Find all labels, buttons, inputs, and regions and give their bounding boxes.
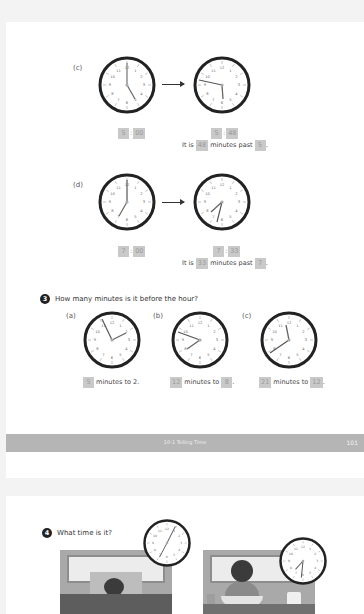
minutes-answer-box: 48	[196, 140, 208, 151]
question-text: How many minutes is it before the hour?	[55, 295, 198, 303]
clock-breakfast-icon	[278, 536, 328, 586]
arrow-head-icon	[180, 81, 185, 87]
q3c-label: (c)	[242, 312, 251, 320]
start-time-display: 7:00	[118, 238, 145, 257]
table	[203, 604, 315, 614]
page-number: 101	[347, 439, 358, 446]
hour-box: 5	[118, 128, 129, 139]
hour-box: 7	[213, 246, 224, 257]
question-number-badge: 4	[42, 528, 52, 538]
clock-q3c-icon	[259, 310, 319, 370]
footer-section-title: 10-1 Telling Time	[6, 439, 364, 445]
question-4-heading: 4What time is it?	[42, 522, 112, 541]
minute-box: 48	[226, 128, 238, 139]
clock-q3b-icon	[170, 310, 230, 370]
question-number-badge: 3	[40, 294, 50, 304]
q3a-label: (a)	[66, 312, 76, 320]
clock-start-icon	[97, 172, 157, 232]
minute-box: 00	[133, 128, 145, 139]
minutes-answer-box: 33	[196, 258, 208, 269]
part-d-sentence: It is 33 minutes past 7.	[182, 258, 268, 269]
clock-start-icon	[97, 55, 157, 115]
hour-answer-box: 12	[310, 377, 322, 388]
hour-answer-box: 5	[255, 140, 266, 151]
minute-box: 00	[133, 246, 145, 257]
end-time-display: 5:48	[211, 120, 238, 139]
clock-bedroom-icon	[142, 518, 192, 568]
minute-box: 33	[228, 246, 240, 257]
clock-q3a-icon	[82, 310, 142, 370]
q3a-answer: 5 minutes to 2.	[83, 377, 139, 388]
clock-end-icon	[192, 55, 252, 115]
page-footer: 10-1 Telling Time 101	[6, 434, 364, 452]
part-c-sentence: It is 48 minutes past 5.	[182, 140, 268, 151]
hour-answer-box: 7	[255, 258, 266, 269]
minutes-answer-box: 5	[83, 377, 94, 388]
minutes-answer-box: 12	[170, 377, 182, 388]
q3b-answer: 12 minutes to 8.	[170, 377, 234, 388]
hour-box: 5	[211, 128, 222, 139]
arrow-head-icon	[180, 199, 185, 205]
end-time-display: 7:33	[213, 238, 240, 257]
part-c-label: (c)	[73, 64, 82, 72]
question-text: What time is it?	[57, 529, 112, 537]
hour-answer-box: 8	[221, 377, 232, 388]
start-time-display: 5:00	[118, 120, 145, 139]
minutes-answer-box: 21	[259, 377, 271, 388]
hour-box: 7	[118, 246, 129, 257]
blanket	[60, 594, 172, 614]
q3c-answer: 21 minutes to 12.	[259, 377, 325, 388]
worksheet-page-102: 4What time is it?	[6, 496, 364, 614]
cup-icon	[207, 594, 215, 604]
worksheet-page-101: (c) 5:00 5:48 It is 48 minutes past 5. (…	[6, 22, 364, 478]
question-3-heading: 3How many minutes is it before the hour?	[40, 288, 198, 307]
q3b-label: (b)	[153, 312, 163, 320]
child-head-icon	[231, 560, 253, 582]
clock-end-icon	[192, 172, 252, 232]
part-d-label: (d)	[73, 181, 83, 189]
